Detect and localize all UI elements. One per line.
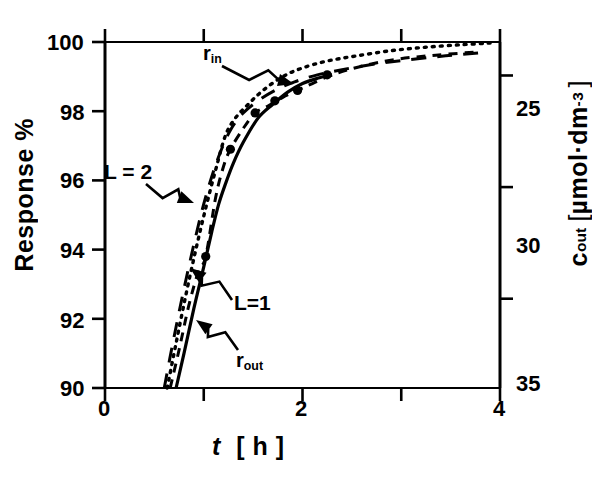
y-left-tick-94: 94	[60, 238, 84, 264]
y-right-tick-30: 30	[516, 233, 540, 259]
annotation-r-out: rout	[236, 349, 263, 373]
y-right-tick-25: 25	[516, 96, 540, 122]
annotation-l1-label: L=1	[234, 291, 271, 314]
annotation-r-out-base: r	[236, 349, 244, 371]
annotation-r-out-sub: out	[244, 359, 263, 373]
y-left-tick-100: 100	[47, 30, 84, 56]
arrow-r-out-head	[196, 320, 213, 334]
arrow-l2-line	[146, 184, 180, 198]
data-point-markers	[201, 70, 332, 261]
y-right-axis-title: cout [ µmol·dm -3 ]	[556, 80, 600, 266]
y-left-tick-98: 98	[60, 100, 84, 126]
data-point-marker	[251, 108, 260, 117]
arrow-r-in-line	[222, 66, 279, 80]
x-tick-0: 0	[98, 396, 110, 422]
arrow-l1-line	[202, 277, 232, 300]
annotation-arrows	[146, 66, 294, 350]
y-right-unit-open: [	[564, 214, 593, 221]
axis-frame	[105, 42, 500, 388]
data-point-marker	[323, 70, 332, 79]
annotation-l2: L = 2	[104, 160, 152, 184]
annotation-r-in: rin	[203, 42, 222, 66]
annotation-r-in-base: r	[203, 42, 211, 64]
y-right-unit-exponent: -3	[569, 91, 587, 106]
y-left-tick-92: 92	[60, 308, 84, 334]
annotation-l2-label: L = 2	[104, 160, 152, 183]
y-right-unit-text: µmol·dm	[564, 106, 593, 214]
data-point-marker	[293, 86, 302, 95]
data-point-marker	[226, 145, 235, 154]
arrow-r-out-line	[208, 329, 238, 350]
x-axis-title-symbol: t	[212, 432, 221, 460]
annotation-l1: L=1	[234, 291, 271, 315]
x-tick-4: 4	[493, 396, 505, 422]
y-left-axis-title: Response %	[4, 118, 44, 272]
data-point-marker	[201, 252, 210, 261]
curve-l-2	[164, 52, 485, 388]
x-tick-2: 2	[295, 396, 307, 422]
annotation-r-in-sub: in	[211, 52, 222, 66]
figure-container: 100 98 96 94 92 90 25 30 35 0 2 4 Respon…	[0, 0, 604, 484]
y-left-tick-90: 90	[60, 376, 84, 402]
y-right-tick-35: 35	[516, 371, 540, 397]
x-axis-title-unit: [ h ]	[236, 432, 284, 460]
x-axis-title: t [ h ]	[212, 432, 285, 461]
y-right-axis-title-symbol: cout	[564, 228, 593, 267]
y-right-unit-close: ]	[564, 80, 593, 87]
curve-l-1	[170, 52, 480, 388]
y-left-tick-96: 96	[60, 168, 84, 194]
data-point-marker	[270, 96, 279, 105]
